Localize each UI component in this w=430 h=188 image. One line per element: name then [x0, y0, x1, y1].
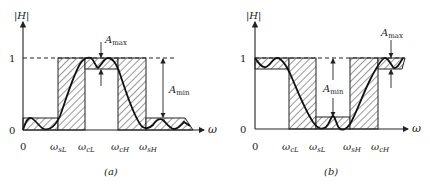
panel-a-x-axis-label: ω — [208, 123, 217, 136]
svg-text:Amax: Amax — [380, 27, 403, 40]
filter-specification-figure: |H| ω 1 0 0 ωsL ωcL ωcH ωsH Amax Amin (a… — [0, 0, 430, 188]
panel-a-tick-0: 0 — [9, 125, 15, 136]
panel-b-tick-wsH: ωsH — [343, 141, 362, 154]
panel-b-y-axis-label: |H| — [246, 10, 261, 22]
panel-b-amin-annotation: Amin — [322, 59, 344, 116]
panel-b-x-axis-label: ω — [412, 122, 421, 135]
panel-a-y-axis-label: |H| — [14, 10, 29, 22]
panel-b-tick-1: 1 — [240, 53, 246, 64]
svg-text:Amin: Amin — [168, 84, 190, 97]
panel-b-tick-wcH: ωcH — [371, 141, 390, 154]
panel-a-tick-wsL: ωsL — [50, 141, 67, 154]
panel-a-bandpass: |H| ω 1 0 0 ωsL ωcL ωcH ωsH Amax Amin (a… — [9, 10, 217, 177]
svg-text:Amax: Amax — [104, 34, 127, 47]
panel-a-tolerance-regions — [23, 58, 193, 130]
panel-a-tick-wcH: ωcH — [111, 141, 130, 154]
panel-b-tick-wcL: ωcL — [282, 141, 299, 154]
panel-a-origin-label: 0 — [20, 141, 26, 152]
panel-a-tick-wcL: ωcL — [78, 141, 95, 154]
panel-b-caption: (b) — [324, 166, 338, 177]
panel-b-origin-label: 0 — [252, 141, 258, 152]
panel-a-amin-annotation: Amin — [163, 59, 190, 117]
svg-text:Amin: Amin — [322, 83, 344, 96]
panel-a-tick-wsH: ωsH — [139, 141, 158, 154]
panel-b-tick-wsL: ωsL — [309, 141, 326, 154]
panel-b-bandstop: |H| ω 1 0 0 ωcL ωsL ωsH ωcH Amax Amin (b… — [240, 10, 421, 177]
panel-a-tick-1: 1 — [9, 53, 15, 64]
panel-a-caption: (a) — [104, 166, 118, 177]
panel-b-tick-0: 0 — [240, 124, 246, 135]
